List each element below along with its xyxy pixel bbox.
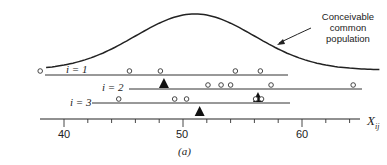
x-axis-title-main: X [367,113,375,128]
observation-circle-icon [38,69,43,74]
observation-circle-icon [219,83,224,88]
tick-label-40: 40 [58,128,70,140]
observation-circle-icon [269,83,274,88]
group-mean-triangle-icon [159,78,169,88]
data-markers [38,69,356,116]
observation-circle-icon [233,69,238,74]
observation-circle-icon [253,97,258,102]
annotation-arrowhead-icon [277,39,285,45]
observation-circle-icon [228,83,233,88]
observation-circle-icon [258,69,263,74]
x-axis-title-subscript: ij [375,122,379,131]
observation-circle-icon [116,97,121,102]
x-axis-title: Xij [367,113,379,131]
tick-label-60: 60 [296,128,308,140]
row-label-i3: i = 3 [70,96,91,108]
annotation-line-1: Conceivable [313,11,383,22]
observation-circle-icon [206,83,211,88]
group-mean-triangle-icon [195,106,205,116]
population-annotation: Conceivable common population [313,11,383,44]
row-label-i2: i = 2 [102,81,123,93]
figure-caption: (a) [178,145,191,157]
x-axis-ticks [64,119,350,127]
observation-circle-icon [158,69,163,74]
observation-circle-icon [259,97,264,102]
annotation-line-2: common [313,22,383,33]
observation-circle-icon [351,83,356,88]
observation-circle-icon [172,97,177,102]
observation-circle-icon [127,69,132,74]
tick-label-50: 50 [176,128,188,140]
annotation-line-3: population [313,33,383,44]
annotation-arrow [279,28,311,43]
row-label-i1: i = 1 [66,63,87,75]
observation-circle-icon [184,97,189,102]
